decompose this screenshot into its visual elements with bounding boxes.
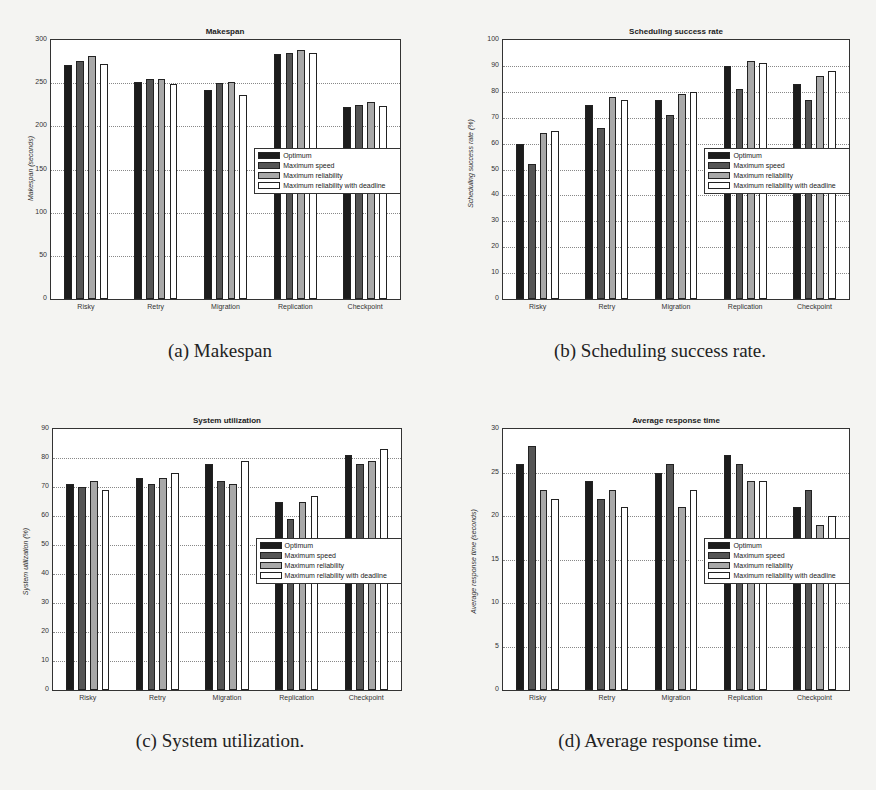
y-tick-label: 50	[473, 165, 499, 172]
y-tick-label: 90	[23, 424, 49, 431]
bar	[379, 106, 387, 299]
legend-swatch-icon	[260, 572, 282, 579]
caption-b: (b) Scheduling success rate.	[440, 340, 876, 362]
y-tick-label: 0	[23, 685, 49, 692]
bar	[597, 499, 605, 690]
legend-label: Optimum	[733, 542, 761, 549]
bar	[747, 481, 755, 690]
bar	[551, 131, 559, 299]
bar	[159, 478, 167, 690]
y-tick-label: 20	[473, 511, 499, 518]
bar	[690, 490, 698, 690]
legend-swatch-icon	[708, 162, 730, 169]
chart-title: Makespan	[50, 27, 400, 36]
x-tick-label: Migration	[192, 694, 262, 701]
legend-label: Maximum speed	[285, 552, 336, 559]
legend-item: Optimum	[708, 541, 845, 551]
bar	[158, 79, 166, 299]
bar	[736, 89, 744, 299]
bar	[805, 490, 813, 690]
caption-d: (d) Average response time.	[440, 730, 876, 752]
bar	[516, 464, 524, 690]
legend-item: Maximum reliability	[708, 171, 845, 181]
legend-swatch-icon	[708, 542, 730, 549]
bar	[805, 100, 813, 299]
bar	[275, 502, 283, 691]
x-tick-label: Risky	[53, 694, 123, 701]
legend-swatch-icon	[258, 162, 280, 169]
bar	[299, 502, 307, 691]
bar	[666, 464, 674, 690]
bar	[171, 473, 179, 691]
legend-label: Optimum	[283, 152, 311, 159]
legend-label: Maximum reliability	[283, 172, 343, 179]
figure-panel-system-utilization: System utilization System utilization (%…	[0, 400, 440, 730]
y-tick-label: 30	[473, 424, 499, 431]
caption-c: (c) System utilization.	[0, 730, 440, 752]
legend-item: Maximum reliability	[258, 171, 397, 181]
bar	[102, 490, 110, 690]
legend-label: Maximum speed	[733, 552, 784, 559]
bar	[678, 94, 686, 299]
y-tick-label: 40	[473, 190, 499, 197]
legend-swatch-icon	[708, 152, 730, 159]
bar	[148, 484, 156, 690]
y-tick-label: 50	[23, 540, 49, 547]
bar	[540, 490, 548, 690]
bar	[134, 82, 142, 299]
bar	[343, 107, 351, 299]
bar	[100, 64, 108, 299]
legend-label: Optimum	[285, 542, 313, 549]
x-tick-label: Replication	[710, 303, 780, 310]
legend: OptimumMaximum speedMaximum reliabilityM…	[254, 148, 401, 194]
legend: OptimumMaximum speedMaximum reliabilityM…	[256, 538, 402, 584]
legend-label: Maximum reliability with deadline	[283, 182, 385, 189]
y-tick-label: 10	[23, 656, 49, 663]
legend-label: Maximum reliability with deadline	[733, 572, 835, 579]
legend-item: Maximum speed	[708, 161, 845, 171]
y-tick-label: 150	[21, 165, 47, 172]
gridline	[503, 473, 849, 474]
legend-item: Maximum reliability	[708, 561, 845, 571]
legend-item: Maximum reliability with deadline	[258, 181, 397, 191]
bar	[690, 92, 698, 299]
legend-swatch-icon	[708, 172, 730, 179]
y-tick-label: 100	[21, 208, 47, 215]
y-tick-label: 70	[23, 482, 49, 489]
y-tick-label: 200	[21, 121, 47, 128]
bar	[229, 484, 237, 690]
bar	[528, 446, 536, 690]
legend-label: Maximum reliability	[285, 562, 345, 569]
bar	[609, 490, 617, 690]
y-tick-label: 80	[473, 87, 499, 94]
legend-swatch-icon	[258, 182, 280, 189]
bar	[204, 90, 212, 299]
chart-title: System utilization	[52, 416, 402, 425]
legend-swatch-icon	[258, 172, 280, 179]
legend-swatch-icon	[708, 182, 730, 189]
legend-swatch-icon	[258, 152, 280, 159]
legend-label: Maximum reliability with deadline	[733, 182, 835, 189]
x-tick-label: Checkpoint	[779, 303, 849, 310]
legend-item: Maximum speed	[258, 161, 397, 171]
legend-label: Maximum reliability	[733, 172, 793, 179]
bar	[551, 499, 559, 690]
legend-item: Maximum speed	[260, 551, 398, 561]
bar	[216, 83, 224, 299]
bar	[367, 102, 375, 299]
y-tick-label: 10	[473, 268, 499, 275]
x-tick-label: Retry	[572, 303, 642, 310]
legend: OptimumMaximum speedMaximum reliabilityM…	[704, 538, 849, 584]
x-tick-label: Risky	[503, 303, 573, 310]
legend-swatch-icon	[260, 542, 282, 549]
bar	[90, 481, 98, 690]
bar	[666, 115, 674, 299]
legend-item: Optimum	[258, 151, 397, 161]
bar	[621, 100, 629, 299]
y-tick-label: 50	[21, 251, 47, 258]
legend-label: Maximum reliability	[733, 562, 793, 569]
x-tick-label: Replication	[710, 694, 780, 701]
bar	[655, 100, 663, 299]
legend-item: Maximum reliability with deadline	[708, 571, 845, 581]
bar	[228, 82, 236, 299]
